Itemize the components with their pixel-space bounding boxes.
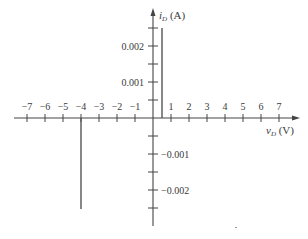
x-tick-label: −7 <box>22 101 33 112</box>
x-axis-arrow-icon <box>292 116 300 121</box>
y-tick-label: 0.002 <box>122 41 145 52</box>
x-axis-label: vD (V) <box>266 124 294 138</box>
x-tick-label: −1 <box>130 101 141 112</box>
x-tick-label: −4 <box>76 101 87 112</box>
x-tick-label: −6 <box>40 101 51 112</box>
x-tick-label: 4 <box>223 101 228 112</box>
x-tick-label: −5 <box>58 101 69 112</box>
y-axis-arrow-icon <box>151 8 156 16</box>
x-axis-tick-labels: −7−6−5−4−3−2−11234567 <box>22 101 282 112</box>
x-tick-label: 1 <box>169 101 174 112</box>
x-tick-label: 7 <box>277 101 282 112</box>
iv-characteristic-chart: −7−6−5−4−3−2−11234567 0.0020.001−0.001−0… <box>0 0 308 239</box>
y-axis-label: iD (A) <box>159 9 185 23</box>
y-tick-label: −0.002 <box>161 185 189 196</box>
x-tick-label: −2 <box>112 101 123 112</box>
x-tick-label: 3 <box>205 101 210 112</box>
x-tick-label: 5 <box>241 101 246 112</box>
x-tick-label: −3 <box>94 101 105 112</box>
x-tick-label: 6 <box>259 101 264 112</box>
y-tick-label: 0.001 <box>122 77 145 88</box>
stray-mark <box>235 227 237 228</box>
y-tick-label: −0.001 <box>161 149 189 160</box>
x-tick-label: 2 <box>187 101 192 112</box>
